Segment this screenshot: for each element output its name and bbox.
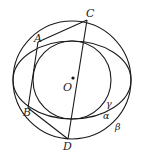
segment-AC [38, 20, 87, 42]
center-point-O [71, 76, 74, 79]
outer-circle-beta [13, 21, 131, 139]
label-A: A [33, 32, 42, 45]
inner-circle-gamma [33, 41, 111, 119]
label-gamma: γ [106, 98, 112, 109]
label-C: C [86, 7, 95, 20]
segment-CD [68, 20, 87, 139]
label-beta: β [114, 121, 121, 132]
label-D: D [62, 140, 72, 153]
label-alpha: α [103, 110, 110, 121]
label-O: O [63, 81, 72, 94]
segment-AB [28, 42, 38, 108]
label-B: B [22, 106, 31, 119]
geometry-diagram: C A B D O γ α β [0, 0, 143, 160]
